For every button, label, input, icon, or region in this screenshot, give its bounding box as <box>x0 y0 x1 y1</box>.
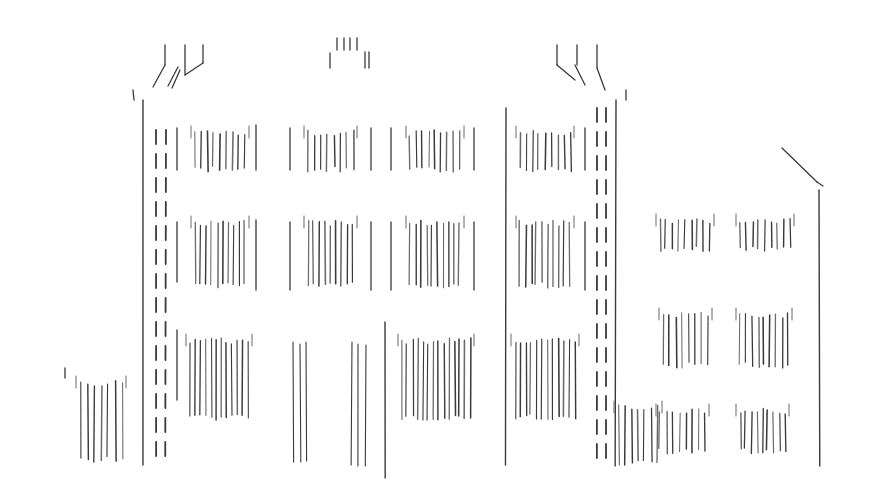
window-stroke <box>571 133 572 172</box>
door-stroke <box>351 342 352 465</box>
window-stroke <box>116 381 117 461</box>
window-stroke <box>564 135 565 168</box>
window-stroke <box>535 222 536 284</box>
door-stroke <box>293 342 294 462</box>
window-stroke <box>773 412 774 453</box>
window-stroke <box>545 133 546 169</box>
window-stroke <box>785 414 786 451</box>
pillar-right-tower-edge <box>615 100 616 466</box>
window-stroke <box>200 341 201 415</box>
window-stroke <box>334 136 335 167</box>
window-stroke <box>757 412 758 453</box>
window-stroke <box>232 132 233 170</box>
roof-stroke <box>557 65 575 80</box>
window-stroke <box>680 413 681 451</box>
window-stroke <box>563 221 564 286</box>
window-stroke <box>751 412 752 454</box>
doors-group <box>293 342 366 466</box>
window-stroke <box>325 221 326 284</box>
window-stroke <box>200 225 201 283</box>
roof-stroke <box>133 90 134 100</box>
window-stroke <box>427 344 428 420</box>
door-stroke <box>365 345 366 466</box>
roof-stroke <box>575 65 585 85</box>
window-stroke <box>418 339 419 420</box>
window-stroke <box>409 223 410 284</box>
window-stroke <box>657 406 658 463</box>
door-stroke <box>300 344 301 462</box>
building-sketch <box>0 0 872 502</box>
window-stroke <box>437 222 438 286</box>
roof-stroke <box>185 63 203 75</box>
window-stroke <box>684 220 685 249</box>
window-stroke <box>94 386 95 462</box>
window-stroke <box>696 219 697 246</box>
window-stroke <box>769 315 770 367</box>
window-stroke <box>678 220 679 252</box>
roof-chimneys-group <box>65 38 823 378</box>
window-stroke <box>569 339 570 417</box>
window-stroke <box>206 226 207 284</box>
window-stroke <box>763 408 764 452</box>
door-stroke <box>306 342 307 461</box>
window-stroke <box>780 413 781 450</box>
window-stroke <box>231 344 232 415</box>
window-stroke <box>739 314 740 365</box>
window-stroke <box>619 405 620 465</box>
window-stroke <box>244 135 245 169</box>
windows-group <box>76 126 794 465</box>
window-stroke <box>458 223 459 285</box>
window-stroke <box>559 338 560 416</box>
roof-stroke <box>817 182 823 186</box>
window-stroke <box>665 219 666 248</box>
window-stroke <box>632 409 633 463</box>
pillar-right-wing-edge <box>819 190 820 466</box>
pillar-center-left-tower-edge <box>505 108 506 465</box>
sketch-drawing <box>0 0 872 502</box>
window-stroke <box>233 225 234 284</box>
roof-stroke <box>153 65 165 87</box>
window-stroke <box>530 343 531 414</box>
window-stroke <box>455 341 456 415</box>
window-stroke <box>423 342 424 420</box>
roof-stroke <box>597 68 605 90</box>
window-stroke <box>651 408 652 461</box>
window-stroke <box>659 412 660 449</box>
window-stroke <box>745 222 746 250</box>
window-stroke <box>790 219 791 248</box>
window-stroke <box>416 131 417 167</box>
window-stroke <box>207 131 208 172</box>
window-stroke <box>766 410 767 450</box>
window-stroke <box>526 225 527 287</box>
window-stroke <box>765 220 766 251</box>
window-stroke <box>101 386 102 461</box>
window-stroke <box>638 410 639 461</box>
pillar-left-tower-dash-b <box>165 130 166 462</box>
roof-stroke <box>172 70 180 88</box>
window-stroke <box>88 384 89 459</box>
window-stroke <box>444 344 445 418</box>
window-stroke <box>409 136 410 169</box>
window-stroke <box>201 131 202 168</box>
roof-stroke <box>782 148 817 182</box>
window-stroke <box>107 384 108 457</box>
window-stroke <box>744 411 745 448</box>
window-stroke <box>313 221 314 284</box>
window-stroke <box>427 226 428 286</box>
window-stroke <box>563 341 564 416</box>
window-stroke <box>752 316 753 366</box>
window-stroke <box>341 222 342 286</box>
